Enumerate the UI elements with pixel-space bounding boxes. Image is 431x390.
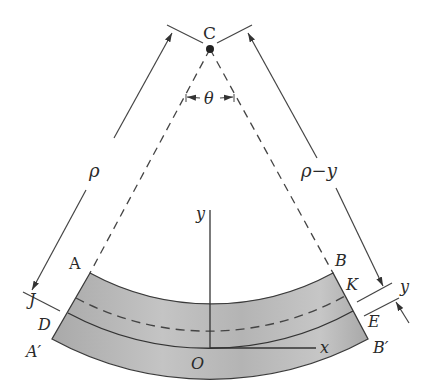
label-y-axis: y <box>195 204 206 223</box>
extension-line-left-top <box>167 25 203 43</box>
label-K: K <box>345 275 359 294</box>
rho-y-dimension-lower <box>336 188 383 286</box>
rho-dimension-upper <box>114 33 172 138</box>
label-E: E <box>367 312 380 331</box>
label-x-axis: x <box>320 338 329 357</box>
radial-line-CA <box>90 49 210 273</box>
label-C: C <box>203 23 216 43</box>
rho-dimension-lower <box>32 190 86 290</box>
diagram-svg: C θ ρ ρ−y A B J K D E A′ B′ O x y y <box>0 0 431 390</box>
label-J: J <box>26 290 37 309</box>
label-D: D <box>37 315 51 334</box>
label-rho-minus-y: ρ−y <box>300 160 338 181</box>
center-point-C <box>206 45 214 53</box>
label-A: A <box>68 254 81 273</box>
extension-line-right-K <box>357 283 392 302</box>
y-offset-arrow <box>396 302 409 323</box>
theta-arrow-right <box>220 97 233 98</box>
beam-bending-diagram: C θ ρ ρ−y A B J K D E A′ B′ O x y y <box>0 0 431 390</box>
label-y-offset: y <box>399 277 410 296</box>
label-O: O <box>191 354 204 373</box>
extension-line-right-top <box>217 25 252 43</box>
theta-arrow-left <box>187 97 200 98</box>
label-B-prime: B′ <box>372 338 389 357</box>
label-A-prime: A′ <box>24 342 42 361</box>
label-rho: ρ <box>88 160 100 181</box>
label-B: B <box>334 251 347 270</box>
rho-y-dimension-upper <box>248 33 317 158</box>
label-theta: θ <box>204 89 214 108</box>
